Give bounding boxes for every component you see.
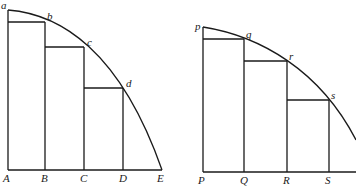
label-A: A xyxy=(2,172,10,184)
left-figure: a b c d A B C D E xyxy=(1,0,164,184)
label-a: a xyxy=(1,0,7,11)
label-P: P xyxy=(197,174,205,186)
right-figure: p q r s P Q R S xyxy=(194,20,356,186)
label-b: b xyxy=(47,10,53,22)
label-R: R xyxy=(282,174,290,186)
right-curve xyxy=(203,27,356,140)
label-E: E xyxy=(156,172,164,184)
label-s: s xyxy=(331,89,335,101)
label-S: S xyxy=(325,174,331,186)
diagram-canvas: a b c d A B C D E p q r s P Q R S xyxy=(0,0,356,192)
label-B: B xyxy=(41,172,48,184)
label-D: D xyxy=(118,172,127,184)
label-p: p xyxy=(194,20,201,32)
label-c: c xyxy=(87,36,92,48)
left-curve xyxy=(8,10,162,170)
label-C: C xyxy=(80,172,88,184)
label-Q: Q xyxy=(240,174,248,186)
label-q: q xyxy=(246,28,252,40)
label-r: r xyxy=(289,50,294,62)
label-d: d xyxy=(126,77,132,89)
